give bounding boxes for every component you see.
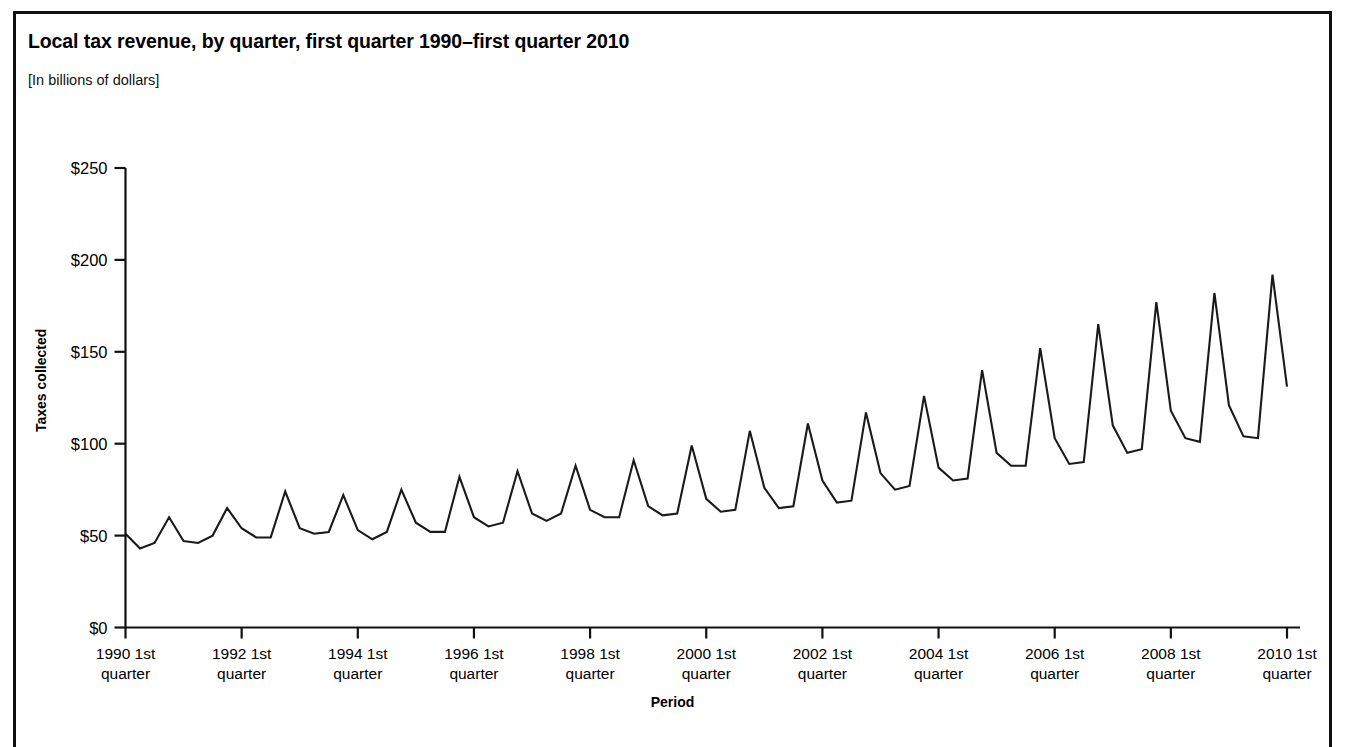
- x-tick-label: 2004 1stquarter: [909, 644, 968, 684]
- x-tick-label: 2006 1stquarter: [1025, 644, 1084, 684]
- x-tick-label: 1998 1stquarter: [560, 644, 619, 684]
- x-tick-label: 2010 1stquarter: [1257, 644, 1316, 684]
- x-tick-label: 1992 1stquarter: [212, 644, 271, 684]
- x-axis-ticks: [126, 628, 1288, 639]
- y-axis-ticks: [115, 168, 126, 628]
- x-tick-label: 1994 1stquarter: [328, 644, 387, 684]
- x-tick-label: 1990 1stquarter: [96, 644, 155, 684]
- y-tick-label: $150: [0, 342, 108, 361]
- y-tick-label: $200: [0, 250, 108, 269]
- x-tick-label: 2000 1stquarter: [677, 644, 736, 684]
- axis-lines: [126, 168, 1301, 628]
- y-tick-label: $0: [0, 618, 108, 637]
- y-tick-label: $100: [0, 434, 108, 453]
- x-tick-label: 2002 1stquarter: [793, 644, 852, 684]
- data-series-line: [126, 275, 1288, 549]
- y-tick-label: $50: [0, 526, 108, 545]
- x-tick-label: 2008 1stquarter: [1141, 644, 1200, 684]
- x-tick-label: 1996 1stquarter: [444, 644, 503, 684]
- y-tick-label: $250: [0, 159, 108, 178]
